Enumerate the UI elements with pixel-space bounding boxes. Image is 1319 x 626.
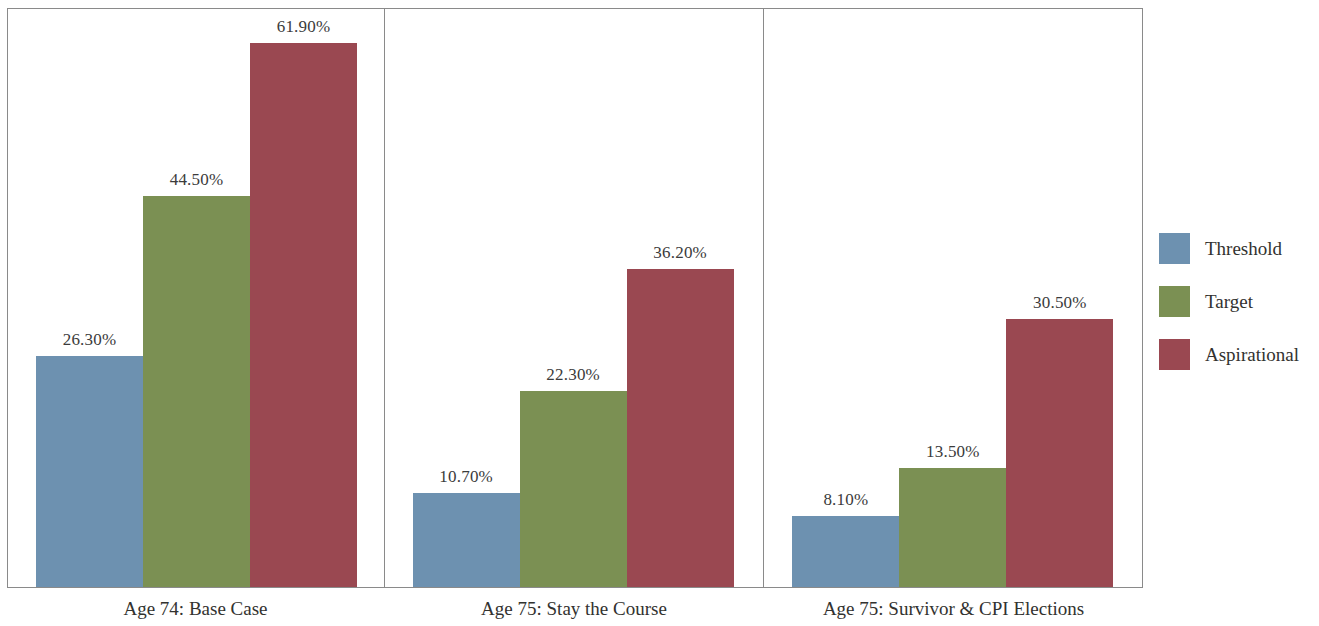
bar-value-label: 30.50% bbox=[1033, 293, 1087, 313]
bar-threshold[interactable]: 26.30% bbox=[36, 356, 143, 587]
legend-item-threshold[interactable]: Threshold bbox=[1159, 222, 1311, 275]
legend-label: Threshold bbox=[1205, 238, 1282, 260]
legend-label: Aspirational bbox=[1205, 344, 1299, 366]
legend-swatch-icon bbox=[1159, 233, 1190, 264]
bar-rect bbox=[250, 43, 357, 587]
bar-group: 26.30% 44.50% 61.90% bbox=[8, 9, 384, 587]
grouped-bar-chart: 26.30% 44.50% 61.90% bbox=[0, 0, 1319, 626]
bar-value-label: 36.20% bbox=[653, 243, 707, 263]
bar-aspirational[interactable]: 61.90% bbox=[250, 43, 357, 587]
facet-panel-age-75-survivor-cpi-elections: 8.10% 13.50% 30.50% bbox=[763, 9, 1142, 587]
bar-value-label: 61.90% bbox=[277, 17, 331, 37]
bar-target[interactable]: 44.50% bbox=[143, 196, 250, 587]
facet-panel-age-75-stay-the-course: 10.70% 22.30% 36.20% bbox=[384, 9, 764, 587]
facet-label-age-74-base-case: Age 74: Base Case bbox=[7, 592, 384, 626]
bar-value-label: 13.50% bbox=[926, 442, 980, 462]
bar-value-label: 8.10% bbox=[823, 490, 868, 510]
bar-rect bbox=[520, 391, 627, 587]
legend-swatch-icon bbox=[1159, 286, 1190, 317]
plot-area: 26.30% 44.50% 61.90% bbox=[7, 8, 1143, 588]
bar-group: 8.10% 13.50% 30.50% bbox=[764, 9, 1142, 587]
bar-rect bbox=[1006, 319, 1113, 587]
legend-item-aspirational[interactable]: Aspirational bbox=[1159, 328, 1311, 381]
bar-threshold[interactable]: 8.10% bbox=[792, 516, 899, 587]
bar-target[interactable]: 22.30% bbox=[520, 391, 627, 587]
legend-swatch-icon bbox=[1159, 339, 1190, 370]
bar-rect bbox=[627, 269, 734, 587]
facet-panel-age-74-base-case: 26.30% 44.50% 61.90% bbox=[8, 9, 384, 587]
bar-value-label: 22.30% bbox=[546, 365, 600, 385]
bar-value-label: 44.50% bbox=[170, 170, 224, 190]
bar-value-label: 10.70% bbox=[439, 467, 493, 487]
bar-aspirational[interactable]: 36.20% bbox=[627, 269, 734, 587]
legend-item-target[interactable]: Target bbox=[1159, 275, 1311, 328]
facet-panels: 26.30% 44.50% 61.90% bbox=[8, 9, 1142, 587]
bar-rect bbox=[899, 468, 1006, 587]
bar-rect bbox=[792, 516, 899, 587]
bar-rect bbox=[143, 196, 250, 587]
facet-label-row: Age 74: Base Case Age 75: Stay the Cours… bbox=[7, 592, 1143, 626]
bar-group: 10.70% 22.30% 36.20% bbox=[385, 9, 764, 587]
facet-label-age-75-stay-the-course: Age 75: Stay the Course bbox=[384, 592, 764, 626]
bar-aspirational[interactable]: 30.50% bbox=[1006, 319, 1113, 587]
bar-target[interactable]: 13.50% bbox=[899, 468, 1006, 587]
legend: Threshold Target Aspirational bbox=[1159, 222, 1311, 381]
bar-rect bbox=[413, 493, 520, 587]
bar-value-label: 26.30% bbox=[63, 330, 117, 350]
facet-label-age-75-survivor-cpi-elections: Age 75: Survivor & CPI Elections bbox=[764, 592, 1143, 626]
legend-label: Target bbox=[1205, 291, 1253, 313]
bar-rect bbox=[36, 356, 143, 587]
bar-threshold[interactable]: 10.70% bbox=[413, 493, 520, 587]
